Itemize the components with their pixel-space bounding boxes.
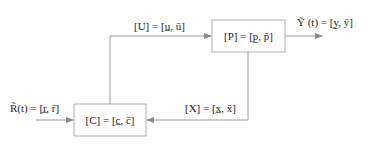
controller-label: [C] = [c̲, c̄]: [74, 114, 146, 126]
control-signal-label: [U] = [u̲, ū]: [134, 20, 185, 32]
reference-signal-label: R̃(t) = [r̲, r̄]: [10, 102, 59, 114]
control-signal-line: [110, 36, 211, 104]
output-signal-label: Ỹ (t) = [y̲, ȳ]: [297, 16, 353, 28]
state-signal-label: [X] = [x̲, x̄]: [185, 102, 236, 114]
plant-label: [P] = [p̲, p̄]: [212, 30, 285, 42]
